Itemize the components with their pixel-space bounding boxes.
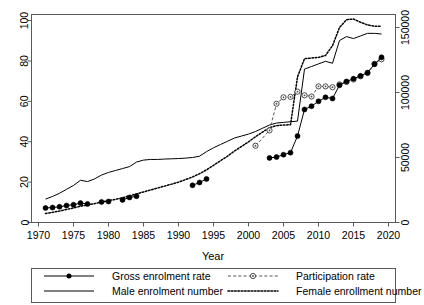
y-right-tick-label: 50000 [399,143,411,172]
series-marker [379,55,384,60]
x-tick-label: 2000 [237,229,261,241]
y-left-tick-label: 40 [19,136,31,148]
series-marker [85,201,90,206]
series-marker [302,107,307,112]
series-marker [57,204,62,209]
x-tick-label: 1985 [132,229,156,241]
series-marker [78,201,83,206]
series-marker-dot [318,85,320,87]
y-left-tick-label: 0 [19,219,31,225]
series-marker-dot [290,96,292,98]
series-marker [50,205,55,210]
y-left-tick-label: 80 [19,55,31,67]
x-axis-title: Year [202,250,225,262]
series-marker-dot [283,96,285,98]
series-marker [64,203,69,208]
series-marker [267,155,272,160]
legend-label: Participation rate [296,270,375,282]
series-marker [106,199,111,204]
series-marker [197,180,202,185]
series-marker-dot [255,145,257,147]
series-marker [99,199,104,204]
y-left-tick-label: 60 [19,95,31,107]
y-right-tick-label: 0 [399,219,411,225]
series-marker [344,79,349,84]
x-tick-label: 1975 [62,229,86,241]
series-marker-dot [311,96,313,98]
x-tick-label: 1995 [202,229,226,241]
series-marker [43,205,48,210]
y-left-tick-label: 100 [19,12,31,30]
x-tick-label: 2020 [377,229,401,241]
series-marker [323,95,328,100]
series-marker [274,155,279,160]
series-marker [337,83,342,88]
series-marker-dot [304,94,306,96]
figure-panel-b: B 020406080100 050000100000150000 197019… [0,0,424,305]
x-tick-label: 1990 [167,229,191,241]
x-tick-label: 1970 [27,229,51,241]
series-marker [288,150,293,155]
x-tick-label: 2005 [272,229,296,241]
series-marker [365,70,370,75]
x-tick-label: 2015 [342,229,366,241]
y-right-tick-label: 100000 [399,75,411,110]
series-marker-dot [325,85,327,87]
series-marker [295,134,300,139]
legend-label: Male enrolment number [112,285,223,297]
series-marker-dot [297,91,299,93]
series-marker [372,62,377,67]
series-marker-dot [332,86,334,88]
series-marker [127,195,132,200]
legend-marker [67,274,72,279]
series-marker [316,99,321,104]
legend-label: Female enrollment number [296,285,422,297]
series-marker [204,176,209,181]
series-marker [190,183,195,188]
series-marker [134,194,139,199]
series-marker [351,76,356,81]
series-marker [330,96,335,101]
y-left-tick-label: 20 [19,176,31,188]
series-marker [358,73,363,78]
series-marker [120,197,125,202]
y-right-tick-label: 150000 [399,10,411,45]
series-marker [309,104,314,109]
enrolment-chart: 020406080100 050000100000150000 19701975… [0,0,424,305]
legend-label: Gross enrolment rate [112,270,211,282]
series-marker [71,202,76,207]
series-marker-dot [269,130,271,132]
series-marker-dot [276,103,278,105]
series-marker [281,152,286,157]
x-tick-label: 1980 [97,229,121,241]
legend-marker-dot [252,275,254,277]
x-tick-label: 2010 [307,229,331,241]
